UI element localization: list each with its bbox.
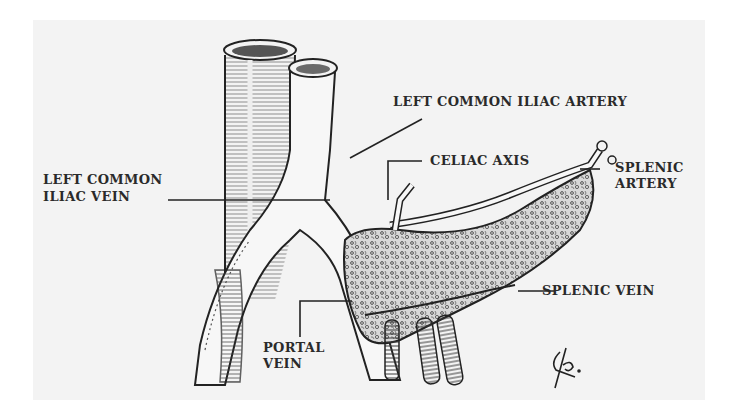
label-celiac-axis: CELIAC AXIS xyxy=(430,153,529,168)
vascular-anatomy-drawing xyxy=(0,0,739,418)
artist-signature xyxy=(554,348,580,388)
label-left-common-iliac-artery: LEFT COMMON ILIAC ARTERY xyxy=(393,94,627,109)
label-left-common-iliac-vein-1: LEFT COMMON xyxy=(43,172,162,187)
label-portal-vein-2: VEIN xyxy=(263,356,302,371)
portal-vein-branches xyxy=(385,314,464,386)
label-portal-vein-1: PORTAL xyxy=(263,340,325,355)
pancreas xyxy=(344,170,593,343)
label-splenic-vein: SPLENIC VEIN xyxy=(542,283,655,298)
label-splenic-artery-2: ARTERY xyxy=(615,176,677,191)
label-splenic-artery-1: SPLENIC xyxy=(615,160,684,175)
label-left-common-iliac-vein-2: ILIAC VEIN xyxy=(43,189,130,204)
